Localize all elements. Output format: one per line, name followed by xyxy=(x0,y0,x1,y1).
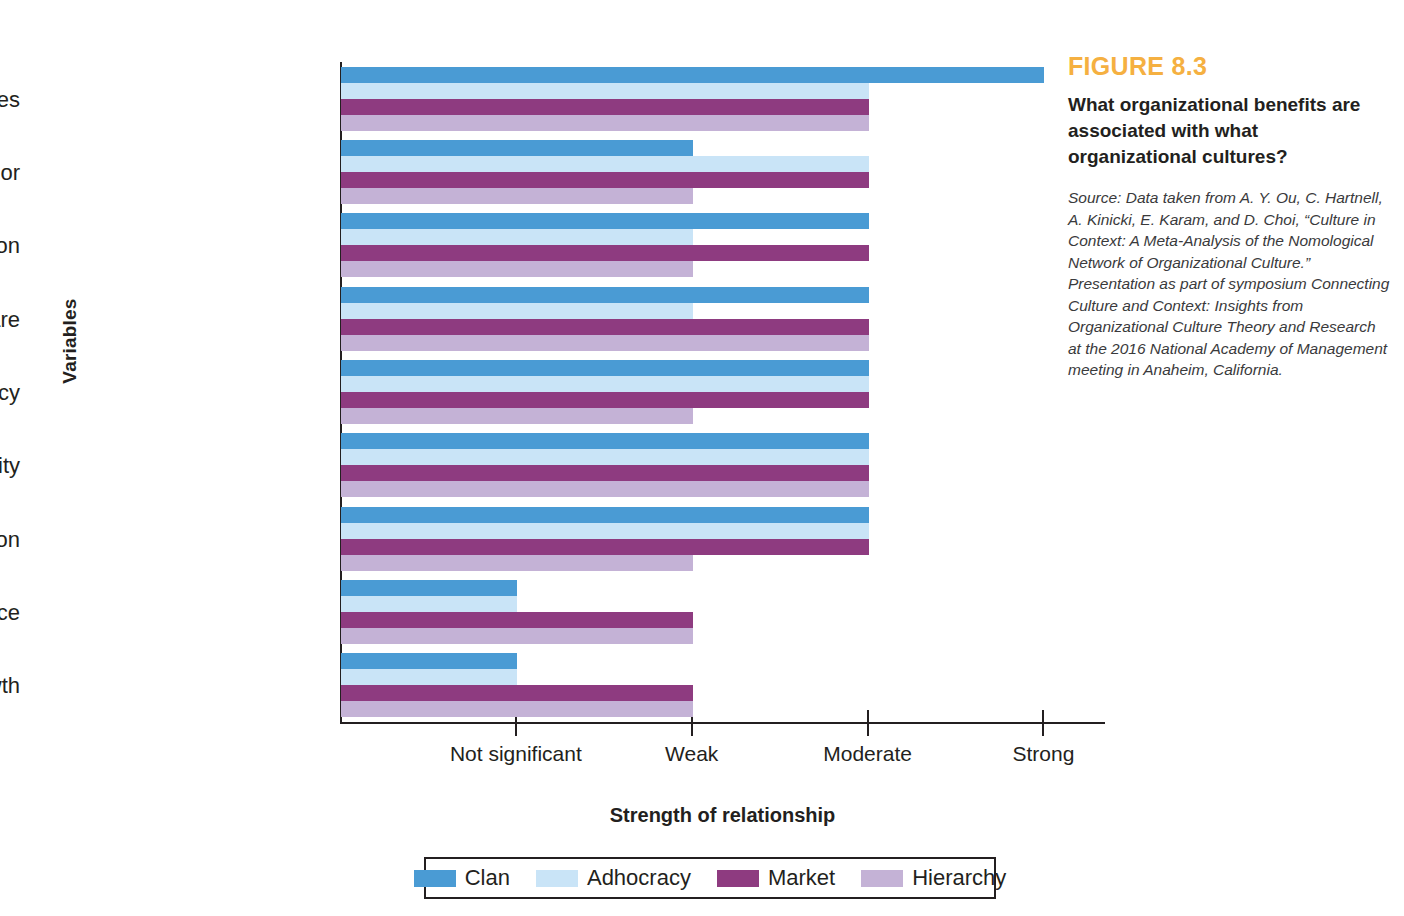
bar-hierarchy xyxy=(341,481,869,497)
x-axis-line xyxy=(340,722,1105,724)
bar-adhocracy xyxy=(341,449,869,465)
category-label: Market share xyxy=(0,305,20,332)
chart-legend: ClanAdhocracyMarketHierarchy xyxy=(424,857,996,899)
legend-swatch-adhocracy xyxy=(536,870,578,887)
bar-adhocracy xyxy=(341,303,693,319)
category-label: Customer satisfaction xyxy=(0,232,20,259)
bar-clan xyxy=(341,67,1044,83)
legend-label-market: Market xyxy=(768,865,835,891)
bar-adhocracy xyxy=(341,669,517,685)
bar-hierarchy xyxy=(341,335,869,351)
legend-item-hierarchy: Hierarchy xyxy=(861,865,1006,891)
bar-market xyxy=(341,245,869,261)
legend-item-adhocracy: Adhocracy xyxy=(536,865,691,891)
bar-clan xyxy=(341,213,869,229)
bar-market xyxy=(341,172,869,188)
legend-item-clan: Clan xyxy=(414,865,510,891)
bar-market xyxy=(341,612,693,628)
bar-market xyxy=(341,685,693,701)
y-axis-title: Variables xyxy=(59,261,81,421)
category-label: Product/service quality xyxy=(0,452,20,479)
figure-number: FIGURE 8.3 xyxy=(1068,52,1390,81)
bar-market xyxy=(341,319,869,335)
bar-clan xyxy=(341,360,869,376)
legend-swatch-clan xyxy=(414,870,456,887)
bar-adhocracy xyxy=(341,596,517,612)
x-axis-tick xyxy=(867,710,869,736)
bar-adhocracy xyxy=(341,376,869,392)
plot-area: Strength of relationship Not significant… xyxy=(340,62,1105,722)
x-axis-tick xyxy=(1042,710,1044,736)
legend-label-hierarchy: Hierarchy xyxy=(912,865,1006,891)
category-label: Positive work attitudes xyxy=(0,85,20,112)
x-axis-tick-label: Not significant xyxy=(450,742,582,766)
bar-clan xyxy=(341,507,869,523)
figure-container: Variables Strength of relationship Not s… xyxy=(0,0,1404,916)
bar-clan xyxy=(341,580,517,596)
bar-clan xyxy=(341,287,869,303)
bar-hierarchy xyxy=(341,701,693,717)
bar-hierarchy xyxy=(341,261,693,277)
x-axis-tick-label: Strong xyxy=(1013,742,1075,766)
bar-clan xyxy=(341,653,517,669)
x-axis-tick-label: Moderate xyxy=(823,742,912,766)
legend-swatch-hierarchy xyxy=(861,870,903,887)
caption-panel: FIGURE 8.3 What organizational benefits … xyxy=(1068,52,1390,381)
legend-label-adhocracy: Adhocracy xyxy=(587,865,691,891)
bar-adhocracy xyxy=(341,229,693,245)
bar-market xyxy=(341,465,869,481)
bar-clan xyxy=(341,433,869,449)
bar-market xyxy=(341,539,869,555)
legend-swatch-market xyxy=(717,870,759,887)
bar-hierarchy xyxy=(341,408,693,424)
category-label: Financial growth xyxy=(0,672,20,699)
bar-adhocracy xyxy=(341,523,869,539)
category-label: Financial performance xyxy=(0,599,20,626)
figure-title: What organizational benefits are associa… xyxy=(1068,92,1390,170)
chart-area: Variables Strength of relationship Not s… xyxy=(0,0,1120,916)
x-axis-tick-label: Weak xyxy=(665,742,718,766)
bar-hierarchy xyxy=(341,188,693,204)
x-axis-title: Strength of relationship xyxy=(340,804,1105,827)
category-label: Positive employee behavior xyxy=(0,159,20,186)
bar-market xyxy=(341,99,869,115)
bar-adhocracy xyxy=(341,83,869,99)
bar-clan xyxy=(341,140,693,156)
figure-source: Source: Data taken from A. Y. Ou, C. Har… xyxy=(1068,187,1390,381)
category-label: Operational efficiency xyxy=(0,379,20,406)
bar-hierarchy xyxy=(341,628,693,644)
bar-hierarchy xyxy=(341,555,693,571)
category-label: Innovation xyxy=(0,525,20,552)
legend-label-clan: Clan xyxy=(465,865,510,891)
bar-market xyxy=(341,392,869,408)
legend-item-market: Market xyxy=(717,865,835,891)
bar-adhocracy xyxy=(341,156,869,172)
bar-hierarchy xyxy=(341,115,869,131)
